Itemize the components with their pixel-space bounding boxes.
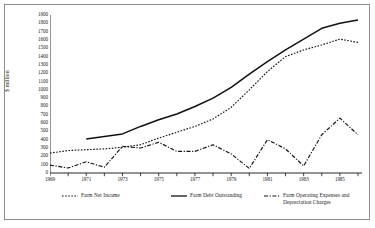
series-line-2 [50,118,358,168]
y-tick-label: 300 [41,145,48,150]
y-tick-label: 800 [41,104,48,109]
legend-item[interactable]: Farm Operating Expenses and Depreciation… [264,192,349,206]
series-line-1 [86,20,358,139]
y-tick-label: 200 [41,154,48,159]
y-tick-label: 1800 [38,21,48,26]
y-tick-label: 1700 [38,29,48,34]
series-line-0 [50,39,358,153]
legend-label: Farm Operating Expenses and Depreciation… [283,192,349,206]
chart-legend: Farm Net IncomeFarm Debt OutstandingFarm… [5,190,369,218]
y-tick-label: 1500 [38,46,48,51]
legend-item[interactable]: Farm Debt Outstanding [171,192,242,199]
y-tick-label: 100 [41,162,48,167]
y-tick-label: 1200 [38,71,48,76]
y-tick-label: 900 [41,96,48,101]
chart-figure: $ million 010020030040050060070080090010… [0,0,375,228]
y-tick-label: 600 [41,120,48,125]
y-tick-label: 1100 [38,79,48,84]
y-tick-label: 1300 [38,62,48,67]
y-tick-label: 1900 [38,12,48,17]
y-axis-tick-labels: 0100200300400500600700800900100011001200… [18,11,48,177]
legend-swatch-dashdot-icon [264,193,280,199]
y-tick-label: 1400 [38,54,48,59]
y-tick-label: 0 [46,170,49,175]
y-axis-title: $ million [4,61,10,101]
legend-label: Farm Debt Outstanding [190,192,242,199]
y-tick-label: 1600 [38,37,48,42]
plot-area [50,15,358,173]
y-tick-label: 500 [41,129,48,134]
legend-swatch-dotted-icon [62,193,78,199]
y-tick-label: 400 [41,137,48,142]
legend-swatch-solid-icon [171,193,187,199]
y-tick-label: 700 [41,112,48,117]
y-tick-label: 1000 [38,87,48,92]
legend-label: Farm Net Income [81,192,120,199]
legend-item[interactable]: Farm Net Income [62,192,120,199]
